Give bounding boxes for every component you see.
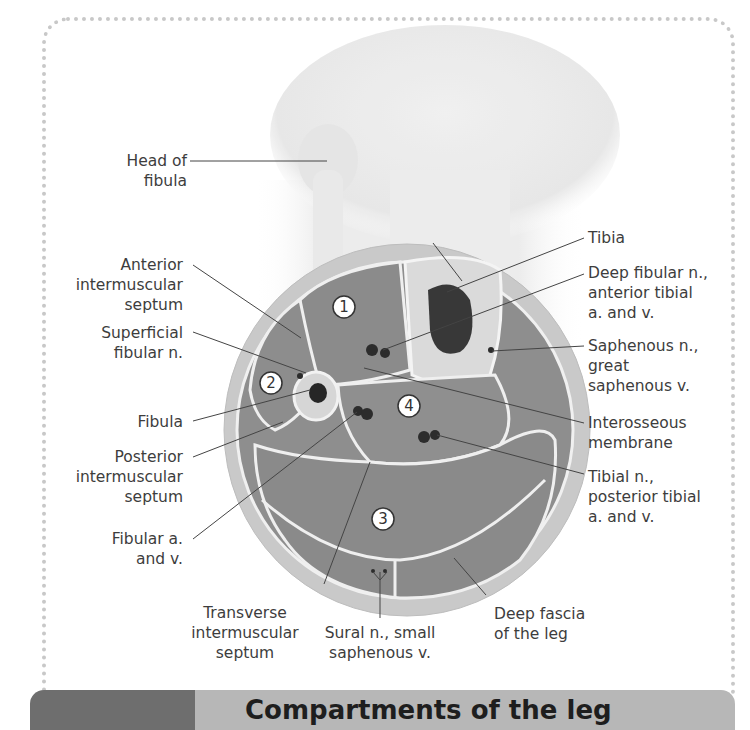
label-sural-n: Sural n., small saphenous v.	[315, 623, 445, 663]
svg-text:1: 1	[339, 298, 349, 316]
compartment-marker-4: 4	[398, 395, 420, 417]
svg-text:4: 4	[404, 397, 414, 415]
label-saphenous-n: Saphenous n., great saphenous v.	[588, 336, 698, 396]
svg-text:2: 2	[266, 374, 276, 392]
label-head-of-fibula: Head of fibula	[127, 151, 187, 191]
label-interosseous-membrane: Interosseous membrane	[588, 413, 687, 453]
label-transverse-intermuscular-septum: Transverse intermuscular septum	[170, 603, 320, 663]
label-fibula: Fibula	[137, 412, 183, 432]
compartment-marker-2: 2	[260, 372, 282, 394]
title-bar-tab	[30, 690, 195, 730]
compartment-marker-3: 3	[372, 508, 394, 530]
label-tibia: Tibia	[588, 228, 625, 248]
title-bar-body: Compartments of the leg	[195, 690, 735, 730]
section-title-bar: Compartments of the leg	[30, 690, 735, 730]
label-deep-fibular-n: Deep fibular n., anterior tibial a. and …	[588, 263, 708, 323]
label-superficial-fibular-n: Superficial fibular n.	[101, 323, 183, 363]
label-posterior-intermuscular-septum: Posterior intermuscular septum	[76, 447, 183, 507]
svg-text:3: 3	[378, 510, 388, 528]
compartment-marker-1: 1	[333, 296, 355, 318]
label-tibial-n: Tibial n., posterior tibial a. and v.	[588, 467, 701, 527]
label-fibular-a-and-v: Fibular a. and v.	[112, 529, 183, 569]
label-deep-fascia: Deep fascia of the leg	[494, 604, 585, 644]
label-anterior-intermuscular-septum: Anterior intermuscular septum	[76, 255, 183, 315]
section-title: Compartments of the leg	[245, 695, 612, 725]
